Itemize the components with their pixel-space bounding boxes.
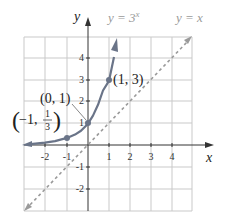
- annotation-neg1-third: ( −1, 1 3 ): [12, 107, 61, 133]
- svg-text:-1: -1: [76, 161, 84, 172]
- svg-text:3: 3: [79, 74, 84, 85]
- svg-text:4: 4: [170, 151, 175, 162]
- svg-text:-2: -2: [76, 183, 84, 194]
- svg-text:-2: -2: [41, 151, 49, 162]
- x-tick-labels: -2 -1 1 2 3 4: [41, 151, 175, 162]
- x-axis-label: x: [205, 150, 213, 165]
- identity-line: [26, 40, 189, 209]
- annotation-0-1: (0, 1): [40, 91, 71, 107]
- point-0-1: [85, 120, 91, 126]
- annotation-1-3: (1, 3): [113, 72, 144, 88]
- curve-arrow-top-icon: [111, 38, 118, 52]
- svg-text:): ): [53, 107, 61, 133]
- svg-text:−1,: −1,: [19, 112, 37, 127]
- point-neg1-third: [64, 135, 70, 141]
- svg-text:3: 3: [45, 121, 50, 132]
- x-axis-arrow-icon: [205, 142, 214, 148]
- svg-text:1: 1: [107, 151, 112, 162]
- svg-text:3: 3: [149, 151, 154, 162]
- svg-text:1: 1: [45, 108, 50, 119]
- svg-text:4: 4: [79, 52, 84, 63]
- svg-text:2: 2: [128, 151, 133, 162]
- svg-text:1: 1: [79, 117, 84, 128]
- exp-series-label: y = 3x: [106, 9, 140, 25]
- point-1-3: [106, 77, 112, 83]
- svg-text:-1: -1: [63, 151, 71, 162]
- y-axis-arrow-icon: [85, 17, 91, 26]
- y-axis-label: y: [72, 9, 81, 24]
- identity-series-label: y = x: [174, 10, 203, 25]
- svg-text:2: 2: [79, 95, 84, 106]
- chart-canvas: -2 -1 1 2 3 4 4 3 2 1 -1 -2 x y y = 3x y…: [0, 0, 225, 221]
